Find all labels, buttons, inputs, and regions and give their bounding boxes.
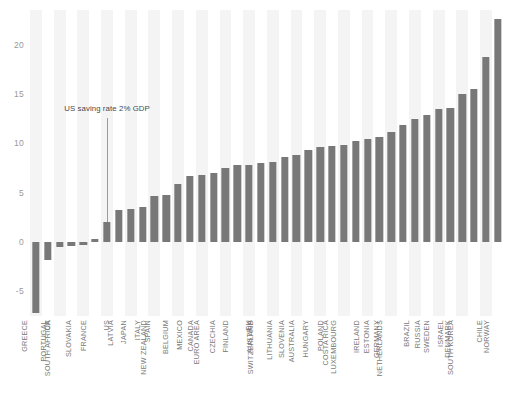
bar[interactable] xyxy=(482,57,489,242)
x-tick-label: NORWAY xyxy=(481,320,490,353)
bar-slot[interactable] xyxy=(184,10,196,316)
bar[interactable] xyxy=(328,146,335,242)
bar[interactable] xyxy=(163,195,170,242)
bar[interactable] xyxy=(317,147,324,242)
plot-area xyxy=(30,10,504,316)
bar-slot[interactable] xyxy=(480,10,492,316)
bar[interactable] xyxy=(91,239,98,242)
bar[interactable] xyxy=(494,19,501,242)
bar[interactable] xyxy=(470,89,477,242)
x-tick-slot: FRANCE xyxy=(89,318,101,407)
bar-slot[interactable] xyxy=(113,10,125,316)
bar-slot[interactable] xyxy=(291,10,303,316)
bar[interactable] xyxy=(411,119,418,242)
x-tick-slot: NORWAY xyxy=(492,318,504,407)
x-tick-label: LATVIA xyxy=(106,320,115,346)
bar[interactable] xyxy=(257,163,264,242)
bar-slot[interactable] xyxy=(231,10,243,316)
bar-slot[interactable] xyxy=(255,10,267,316)
bar[interactable] xyxy=(376,137,383,242)
bar[interactable] xyxy=(198,175,205,242)
bar-slot[interactable] xyxy=(433,10,445,316)
bar[interactable] xyxy=(186,176,193,242)
bar[interactable] xyxy=(364,139,371,242)
x-tick-label: LUXEMBOURG xyxy=(329,320,338,374)
bar[interactable] xyxy=(388,132,395,242)
bar-slot[interactable] xyxy=(137,10,149,316)
bar-slot[interactable] xyxy=(373,10,385,316)
bar[interactable] xyxy=(399,125,406,241)
bar[interactable] xyxy=(222,168,229,242)
bar-slot[interactable] xyxy=(445,10,457,316)
bar-slot[interactable] xyxy=(338,10,350,316)
x-tick-label: BRAZIL xyxy=(402,320,411,347)
bar[interactable] xyxy=(210,173,217,242)
bar-slot[interactable] xyxy=(54,10,66,316)
bar[interactable] xyxy=(234,165,241,242)
bar[interactable] xyxy=(139,207,146,242)
bar-slot[interactable] xyxy=(326,10,338,316)
bar[interactable] xyxy=(127,209,134,242)
y-tick-label: -5 xyxy=(16,286,24,296)
annotation-label: US saving rate 2% GDP xyxy=(64,104,150,113)
bar-slot[interactable] xyxy=(125,10,137,316)
bar[interactable] xyxy=(32,242,39,313)
bar[interactable] xyxy=(435,109,442,242)
bar[interactable] xyxy=(340,145,347,242)
bar[interactable] xyxy=(80,242,87,245)
x-tick-label: SLOVAKIA xyxy=(65,320,74,357)
x-tick-label: IRELAND xyxy=(351,320,360,353)
bar-slot[interactable] xyxy=(160,10,172,316)
x-tick-label: SLOVENIA xyxy=(278,320,287,358)
bar[interactable] xyxy=(447,108,454,242)
bar[interactable] xyxy=(459,94,466,242)
bar-slot[interactable] xyxy=(302,10,314,316)
x-tick-label: AUSTRALIA xyxy=(287,320,296,362)
bar-slot[interactable] xyxy=(279,10,291,316)
bar[interactable] xyxy=(115,210,122,242)
bar[interactable] xyxy=(174,184,181,242)
x-tick-label: HUNGARY xyxy=(301,320,310,358)
bar-slot[interactable] xyxy=(492,10,504,316)
bar-slot[interactable] xyxy=(148,10,160,316)
bar[interactable] xyxy=(281,157,288,242)
bar-slot[interactable] xyxy=(409,10,421,316)
bar[interactable] xyxy=(305,150,312,242)
bar-slot[interactable] xyxy=(456,10,468,316)
bar-slot[interactable] xyxy=(66,10,78,316)
bar[interactable] xyxy=(269,162,276,242)
bar[interactable] xyxy=(293,155,300,242)
bar-slot[interactable] xyxy=(77,10,89,316)
bar-slot[interactable] xyxy=(208,10,220,316)
bar[interactable] xyxy=(423,115,430,242)
bar-slot[interactable] xyxy=(243,10,255,316)
bar-slot[interactable] xyxy=(385,10,397,316)
bar[interactable] xyxy=(56,242,63,247)
x-tick-slot: SPAIN xyxy=(148,318,160,407)
x-tick-slot: GERMANY xyxy=(385,318,397,407)
bar-slot[interactable] xyxy=(397,10,409,316)
bar-slot[interactable] xyxy=(30,10,42,316)
bar-slot[interactable] xyxy=(468,10,480,316)
x-tick-label: JAPAN xyxy=(119,320,128,344)
y-tick-label: 0 xyxy=(19,237,24,247)
bar-slot[interactable] xyxy=(42,10,54,316)
y-tick-label: 10 xyxy=(14,138,24,148)
bar-slot[interactable] xyxy=(172,10,184,316)
bar[interactable] xyxy=(68,242,75,246)
bar[interactable] xyxy=(151,196,158,242)
bar-slot[interactable] xyxy=(421,10,433,316)
bar-slot[interactable] xyxy=(196,10,208,316)
bar[interactable] xyxy=(352,141,359,242)
bar-slot[interactable] xyxy=(314,10,326,316)
bar-slot[interactable] xyxy=(89,10,101,316)
bar-slot[interactable] xyxy=(220,10,232,316)
bar-series xyxy=(30,10,504,316)
bar[interactable] xyxy=(44,242,51,260)
x-tick-slot: FINLAND xyxy=(231,318,243,407)
bar-slot[interactable] xyxy=(267,10,279,316)
bar[interactable] xyxy=(103,222,110,242)
bar-slot[interactable] xyxy=(362,10,374,316)
bar[interactable] xyxy=(245,165,252,242)
bar-slot[interactable] xyxy=(350,10,362,316)
